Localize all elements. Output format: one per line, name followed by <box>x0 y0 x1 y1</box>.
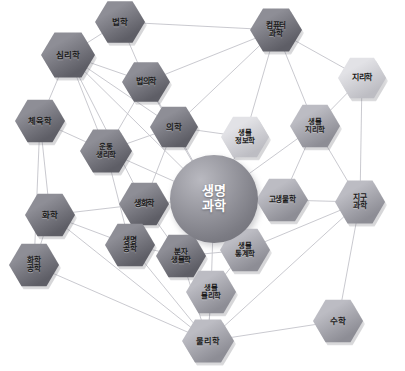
node-label-geography: 지리학 <box>350 74 374 82</box>
node-label-chemistry: 화학 <box>40 211 59 220</box>
node-label-medicine: 의학 <box>164 123 183 132</box>
center-node-life-science[interactable]: 생명과학 <box>170 155 258 243</box>
node-label-earth-sci: 지구과학 <box>351 194 368 210</box>
science-network-diagram: 법학컴퓨터과학심리학법의학지리학체육학의학생물정보학생물지리학운동생리학생화학고… <box>0 0 405 371</box>
node-label-bioinformatics: 생물정보학 <box>233 129 257 145</box>
node-label-bioengineering: 생명공학 <box>121 237 138 253</box>
node-label-mathematics: 수학 <box>328 317 347 326</box>
node-label-biochemistry: 생화학 <box>132 200 156 208</box>
node-label-exercise-phys: 운동생리학 <box>94 143 118 159</box>
node-label-computer-sci: 컴퓨터과학 <box>264 22 288 38</box>
center-node-label: 생명과학 <box>202 184 226 213</box>
node-label-physics: 물리학 <box>194 337 221 346</box>
node-label-forensics: 법의학 <box>134 78 158 86</box>
node-label-physical-ed: 체육학 <box>26 117 53 126</box>
node-label-paleontology: 고생물학 <box>267 196 298 204</box>
node-label-law: 법학 <box>110 18 129 27</box>
node-label-chem-eng: 화학공학 <box>25 257 42 273</box>
node-label-molecular-bio: 분자생물학 <box>169 248 193 264</box>
node-label-biostatistics: 생물통계학 <box>233 242 257 258</box>
node-label-psychology: 심리학 <box>54 51 81 60</box>
node-label-biogeography: 생물지리학 <box>303 118 327 134</box>
node-label-biophysics: 생물물리학 <box>199 284 223 300</box>
